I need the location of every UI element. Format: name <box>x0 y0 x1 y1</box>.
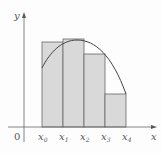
tick-label-x3: x3 <box>101 131 111 143</box>
x-axis-label: x <box>151 131 157 142</box>
rectangle-4 <box>105 94 126 127</box>
y-axis-arrow-icon <box>22 12 26 18</box>
tick-label-x1: x1 <box>59 131 68 143</box>
tick-label-x0: x0 <box>38 131 48 143</box>
tick-label-x2: x2 <box>80 131 90 143</box>
y-axis-label: y <box>13 10 20 21</box>
rectangle-2 <box>63 39 84 127</box>
rectangle-3 <box>84 54 105 127</box>
rectangle-1 <box>42 42 63 127</box>
origin-label: 0 <box>14 131 20 142</box>
x-axis-arrow-icon <box>151 125 157 129</box>
tick-label-x4: x4 <box>122 131 132 143</box>
riemann-diagram: y x 0 x0 x1 x2 x3 x4 <box>0 0 162 153</box>
